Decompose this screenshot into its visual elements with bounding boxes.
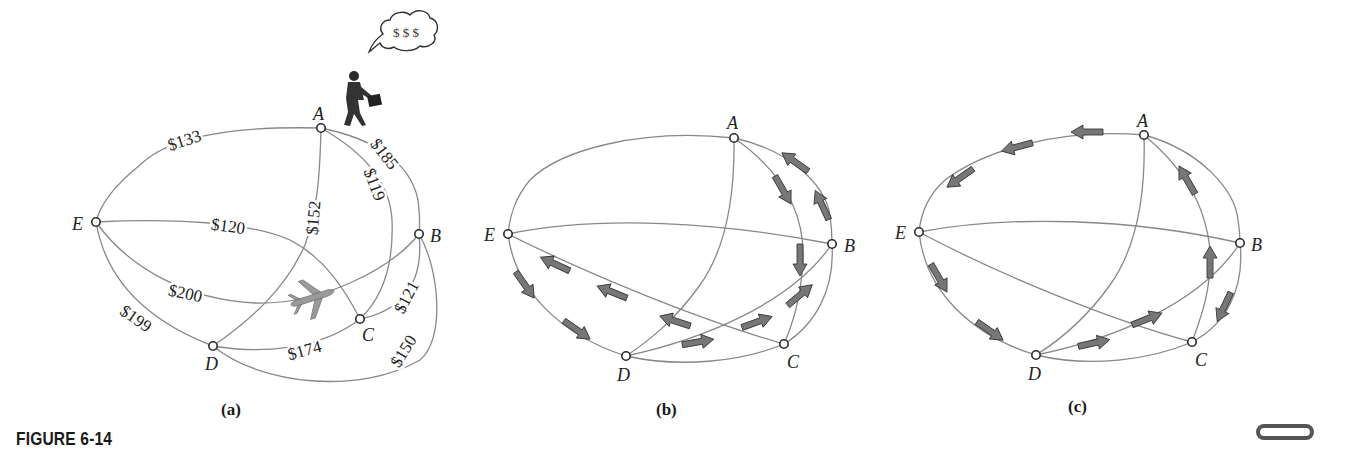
direction-arrow-icon bbox=[1071, 125, 1103, 139]
figure-caption: FIGURE 6-14 bbox=[16, 428, 112, 450]
direction-arrow-icon bbox=[1000, 136, 1035, 158]
direction-arrow-icon bbox=[769, 173, 797, 208]
panel-c-graph: ABCDE bbox=[894, 111, 1262, 384]
direction-arrow-icon bbox=[793, 244, 807, 276]
node-label-A: A bbox=[312, 104, 325, 124]
direction-arrow-icon bbox=[538, 251, 573, 277]
node-label-D: D bbox=[1027, 364, 1041, 384]
node-label-C: C bbox=[362, 325, 375, 345]
edge-E-D bbox=[508, 234, 626, 356]
node-label-E: E bbox=[894, 223, 906, 243]
edge-E-B bbox=[508, 223, 832, 244]
edge-E-C bbox=[919, 232, 1192, 342]
thought-bubble-text: $ $ $ bbox=[393, 25, 420, 40]
panel-label-b: (b) bbox=[656, 400, 677, 420]
edge-E-B bbox=[919, 221, 1240, 243]
edge-A-C bbox=[1144, 135, 1210, 342]
direction-arrow-icon bbox=[595, 280, 630, 305]
node-E bbox=[915, 228, 923, 236]
panel-label-a: (a) bbox=[221, 400, 241, 420]
edge-A-E bbox=[96, 128, 321, 222]
direction-arrow-icon bbox=[925, 261, 953, 296]
node-B bbox=[415, 230, 423, 238]
node-E bbox=[92, 218, 100, 226]
direction-arrow-icon bbox=[740, 310, 775, 334]
edge-cost-label: $133 bbox=[165, 126, 203, 155]
edge-A-C bbox=[734, 138, 803, 344]
node-A bbox=[317, 124, 325, 132]
node-D bbox=[1032, 351, 1040, 359]
edge-E-D bbox=[96, 222, 213, 346]
node-E bbox=[504, 230, 512, 238]
node-A bbox=[730, 134, 738, 142]
node-B bbox=[828, 240, 836, 248]
figure-canvas: $133$185$119$152$120$200$199$174$121$150… bbox=[0, 0, 1367, 456]
direction-arrow-icon bbox=[658, 309, 693, 332]
panel-b-graph: ABCDE bbox=[483, 113, 855, 385]
node-label-B: B bbox=[844, 236, 855, 256]
node-label-C: C bbox=[1195, 350, 1208, 370]
edge-cost-label: $119 bbox=[360, 166, 389, 204]
node-label-A: A bbox=[1136, 111, 1149, 131]
edge-cost-label: $174 bbox=[286, 337, 324, 364]
node-B bbox=[1236, 239, 1244, 247]
node-C bbox=[780, 340, 788, 348]
node-C bbox=[1188, 338, 1196, 346]
node-label-D: D bbox=[204, 354, 218, 374]
node-label-C: C bbox=[787, 352, 800, 372]
panel-label-c: (c) bbox=[1068, 397, 1087, 417]
edge-E-D bbox=[919, 232, 1036, 355]
direction-arrow-icon bbox=[783, 279, 817, 310]
node-label-E: E bbox=[71, 214, 83, 234]
airplane-icon bbox=[285, 272, 340, 324]
node-label-B: B bbox=[1251, 235, 1262, 255]
direction-arrow-icon bbox=[778, 147, 812, 177]
node-label-D: D bbox=[616, 365, 630, 385]
rounded-rectangle-icon bbox=[1256, 424, 1314, 440]
node-D bbox=[209, 342, 217, 350]
edge-cost-label: $120 bbox=[210, 215, 246, 239]
edge-cost-label: $150 bbox=[387, 332, 421, 371]
businessman-walking-icon bbox=[344, 71, 382, 126]
node-D bbox=[622, 352, 630, 360]
edge-D-C bbox=[1036, 342, 1192, 361]
panel-a-graph: $133$185$119$152$120$200$199$174$121$150… bbox=[71, 104, 441, 381]
edge-E-B bbox=[96, 222, 419, 303]
edge-cost-label: $200 bbox=[167, 281, 204, 307]
direction-arrow-icon bbox=[1211, 290, 1237, 325]
edge-A-D bbox=[213, 128, 321, 346]
node-C bbox=[356, 315, 364, 323]
node-label-E: E bbox=[483, 225, 495, 245]
node-label-A: A bbox=[726, 113, 739, 133]
edge-cost-label: $199 bbox=[117, 301, 156, 336]
edge-A-E bbox=[508, 136, 734, 234]
direction-arrow-icon bbox=[1130, 307, 1165, 332]
node-A bbox=[1140, 131, 1148, 139]
node-label-B: B bbox=[430, 226, 441, 246]
edge-cost-label: $152 bbox=[302, 200, 324, 236]
edge-cost-label: $121 bbox=[390, 278, 423, 317]
